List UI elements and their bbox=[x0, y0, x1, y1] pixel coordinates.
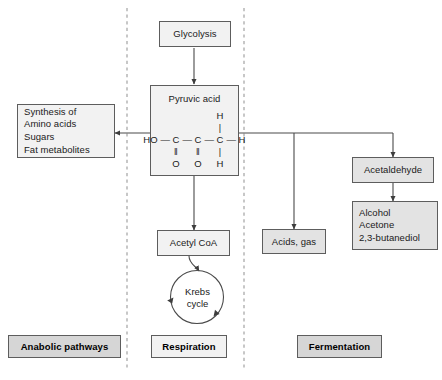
node-krebs-cycle[interactable]: Krebs cycle bbox=[171, 285, 224, 310]
node-anabolic-products-label: Synthesis of Amino acids Sugars Fat meta… bbox=[24, 106, 90, 156]
structure-row-vertical-bonds: ‖ ‖ | bbox=[141, 146, 249, 158]
node-acetyl-coa-label: Acetyl CoA bbox=[170, 237, 218, 249]
krebs-cycle-line-2: cycle bbox=[187, 298, 209, 310]
structure-atom-c1: C bbox=[170, 134, 183, 146]
structure-atom-h-right: H bbox=[236, 134, 249, 146]
structure-bond-c2-c3: — bbox=[205, 134, 214, 146]
node-pyruvic-acid-title: Pyruvic acid bbox=[151, 93, 238, 105]
structure-atom-h-top: H bbox=[214, 110, 227, 122]
node-pyruvic-acid[interactable]: Pyruvic acid H | bbox=[150, 85, 239, 176]
metabolic-pathway-diagram: Glycolysis Pyruvic acid H bbox=[0, 0, 442, 380]
pyruvic-acid-structural-formula: H | HO — C — C bbox=[151, 110, 238, 170]
structure-row-top-bond: | bbox=[141, 122, 249, 134]
structure-bond-c3-h-top: | bbox=[214, 123, 227, 133]
section-label-anabolic-pathways[interactable]: Anabolic pathways bbox=[8, 335, 121, 358]
section-label-respiration-text: Respiration bbox=[162, 341, 215, 352]
structure-bond-c3-h-right: — bbox=[227, 134, 236, 146]
structure-bond-c3-h-bottom: | bbox=[214, 147, 227, 157]
krebs-cycle-line-1: Krebs bbox=[185, 286, 210, 298]
node-anabolic-products[interactable]: Synthesis of Amino acids Sugars Fat meta… bbox=[17, 104, 115, 158]
node-acetaldehyde-label: Acetaldehyde bbox=[364, 164, 422, 176]
structure-bond-c1-c2: — bbox=[183, 134, 192, 146]
section-label-fermentation-text: Fermentation bbox=[309, 341, 370, 352]
node-acids-gas-label: Acids, gas bbox=[272, 236, 316, 248]
node-acids-gas[interactable]: Acids, gas bbox=[262, 229, 326, 254]
node-acetyl-coa[interactable]: Acetyl CoA bbox=[157, 230, 230, 256]
structure-atom-c3: C bbox=[214, 134, 227, 146]
structure-row-main-chain: HO — C — C — C — H bbox=[141, 134, 249, 146]
diagram-vector-layer bbox=[0, 0, 442, 380]
structure-atom-o1: O bbox=[170, 158, 183, 170]
structure-atom-o2: O bbox=[192, 158, 205, 170]
node-fermentation-products-label: Alcohol Acetone 2,3-butanediol bbox=[359, 207, 420, 245]
node-glycolysis-label: Glycolysis bbox=[173, 28, 216, 40]
section-label-anabolic-text: Anabolic pathways bbox=[21, 341, 109, 352]
structure-bond-ho-c1: — bbox=[161, 134, 170, 146]
section-label-fermentation[interactable]: Fermentation bbox=[297, 335, 382, 358]
node-acetaldehyde[interactable]: Acetaldehyde bbox=[352, 157, 434, 183]
structure-atom-h-bottom: H bbox=[214, 158, 227, 170]
node-glycolysis[interactable]: Glycolysis bbox=[159, 21, 231, 47]
structure-row-top: H bbox=[141, 110, 249, 122]
structure-bond-c2-o: ‖ bbox=[192, 147, 205, 157]
node-fermentation-products[interactable]: Alcohol Acetone 2,3-butanediol bbox=[352, 201, 438, 250]
structure-atom-c2: C bbox=[192, 134, 205, 146]
structure-bond-c1-o: ‖ bbox=[170, 147, 183, 157]
structure-atom-hydroxyl: HO bbox=[141, 134, 161, 146]
section-label-respiration[interactable]: Respiration bbox=[151, 335, 227, 358]
structure-row-bottom: O O H bbox=[141, 158, 249, 170]
connector-acetyl-coa-to-krebs bbox=[189, 256, 199, 271]
